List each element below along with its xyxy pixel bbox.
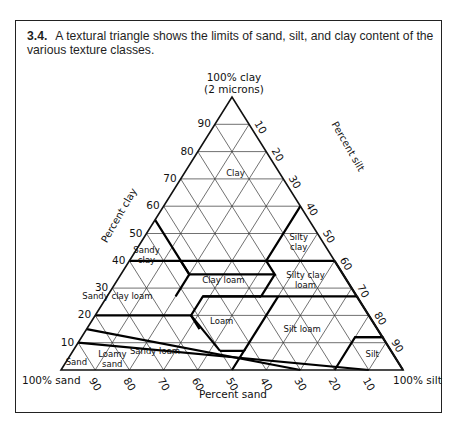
apex-top-label-2: (2 microns) [204,83,264,95]
apex-bottom-left-label: 100% sand [22,374,81,386]
class-label-clay: Clay [226,168,245,178]
class-boundary [181,261,190,275]
class-label-clay-loam: Clay loam [202,275,244,285]
tick-label-clay: 90 [198,117,211,129]
class-label-silty-clay-loam: loam [295,280,316,290]
class-label-loam: Loam [210,316,233,326]
class-label-silty-clay: Silty [289,232,307,242]
apex-bottom-right-label: 100% silt [393,374,442,386]
class-label-sand: Sand [66,357,87,367]
class-label-silt: Silt [365,349,379,359]
class-labels: ClaySandyclaySiltyclayClay loamSilty cla… [66,168,380,369]
class-boundary [155,220,275,275]
class-label-loamy-sand: sand [102,359,122,369]
tick-label-sand: 70 [156,375,173,393]
tick-label-sand: 30 [292,375,309,393]
tick-label-clay: 80 [180,145,193,157]
tick-label-clay: 20 [78,308,91,320]
grid-lines [78,124,386,370]
class-boundary [176,274,190,296]
class-label-silty-clay: clay [290,242,307,252]
class-label-sandy-clay: Sandy [133,245,159,255]
class-label-sandy-clay: clay [138,255,155,265]
tick-label-clay: 10 [61,336,74,348]
tick-label-sand: 90 [87,375,104,393]
axis-title-bottom: Percent sand [199,388,267,400]
tick-label-clay: 40 [112,254,125,266]
class-label-sandy-clay-loam: Sandy clay loam [82,291,152,301]
axis-title-right: Percent silt [329,119,366,173]
tick-label-sand: 10 [361,375,378,393]
class-label-silty-clay-loam: Silty clay [286,270,324,280]
tick-label-sand: 20 [327,375,344,393]
tick-label-clay: 50 [129,227,142,239]
tick-label-sand: 80 [121,375,138,393]
class-boundary [220,351,244,370]
tick-label-clay: 60 [146,199,159,211]
textural-triangle: 1020304050607080901020304050607080909080… [0,0,454,431]
class-label-silt-loam: Silt loam [284,324,321,334]
class-label-loamy-sand: Loamy [98,349,126,359]
apex-top-label-1: 100% clay [207,71,262,83]
class-label-sandy-loam: Sandy loam [130,346,180,356]
tick-label-clay: 70 [163,172,176,184]
